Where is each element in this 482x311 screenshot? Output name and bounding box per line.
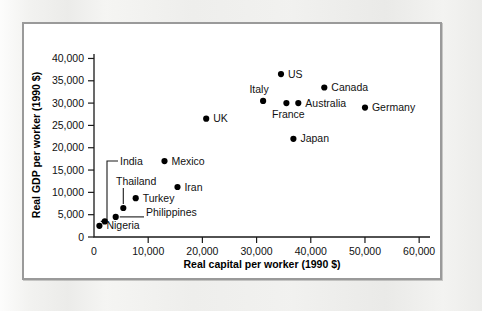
data-label-germany: Germany	[372, 101, 416, 113]
x-axis-tick-labels: 010,00020,00030,00040,00050,00060,000	[91, 245, 435, 257]
x-axis-ticks	[148, 237, 419, 243]
data-point-australia	[295, 100, 301, 106]
x-tick-label: 20,000	[186, 245, 218, 257]
data-point-markers	[96, 71, 368, 229]
y-tick-label: 40,000	[52, 52, 84, 64]
data-point-france	[283, 100, 289, 106]
page-background: 05,00010,00015,00020,00025,00030,00035,0…	[0, 0, 482, 311]
data-label-japan: Japan	[300, 132, 329, 144]
data-point-uk	[203, 116, 209, 122]
x-tick-label: 60,000	[403, 245, 435, 257]
data-label-turkey: Turkey	[143, 192, 175, 204]
data-point-iran	[174, 184, 180, 190]
y-axis-tick-labels: 05,00010,00015,00020,00025,00030,00035,0…	[52, 52, 84, 243]
data-point-mexico	[161, 158, 167, 164]
y-tick-label: 35,000	[52, 74, 84, 86]
data-label-nigeria: Nigeria	[106, 219, 139, 231]
data-point-italy	[260, 98, 266, 104]
x-tick-label: 30,000	[241, 245, 273, 257]
x-tick-label: 40,000	[295, 245, 327, 257]
data-point-us	[278, 71, 284, 77]
data-point-japan	[290, 136, 296, 142]
data-point-canada	[321, 84, 327, 90]
y-tick-label: 10,000	[52, 186, 84, 198]
y-tick-label: 0	[78, 231, 84, 243]
data-point-nigeria	[96, 223, 102, 229]
data-label-france: France	[272, 108, 305, 120]
y-axis-title: Real GDP per worker (1990 $)	[30, 72, 42, 218]
chart-canvas: 05,00010,00015,00020,00025,00030,00035,0…	[24, 24, 440, 278]
x-tick-label: 50,000	[349, 245, 381, 257]
x-axis-title: Real capital per worker (1990 $)	[184, 258, 341, 270]
y-tick-label: 25,000	[52, 119, 84, 131]
y-tick-label: 30,000	[52, 97, 84, 109]
data-label-canada: Canada	[331, 81, 368, 93]
data-point-labels: NigeriaIndiaPhilippinesThailandTurkeyMex…	[106, 68, 415, 232]
y-axis-ticks	[88, 58, 94, 237]
data-point-germany	[362, 105, 368, 111]
data-label-us: US	[288, 68, 303, 80]
y-tick-label: 20,000	[52, 141, 84, 153]
data-label-uk: UK	[213, 112, 228, 124]
figure-frame: 05,00010,00015,00020,00025,00030,00035,0…	[22, 22, 442, 280]
data-label-italy: Italy	[249, 83, 269, 95]
leader-line-india	[101, 161, 118, 221]
data-label-philippines: Philippines	[146, 206, 197, 218]
x-tick-label: 10,000	[132, 245, 164, 257]
y-tick-label: 15,000	[52, 164, 84, 176]
label-leader-lines	[101, 161, 144, 221]
data-label-australia: Australia	[305, 97, 346, 109]
scatter-plot: 05,00010,00015,00020,00025,00030,00035,0…	[24, 24, 440, 278]
axis-lines	[94, 54, 430, 237]
data-label-india: India	[120, 155, 143, 167]
data-label-mexico: Mexico	[171, 155, 204, 167]
x-tick-label: 0	[91, 245, 97, 257]
data-point-turkey	[133, 195, 139, 201]
data-point-thailand	[120, 205, 126, 211]
y-tick-label: 5,000	[58, 208, 84, 220]
data-label-thailand: Thailand	[116, 175, 156, 187]
data-label-iran: Iran	[184, 181, 202, 193]
